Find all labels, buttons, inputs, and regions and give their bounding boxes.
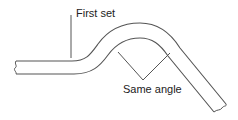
bent-tube-diagram: First set Same angle bbox=[0, 0, 238, 120]
tube-inner-edge bbox=[16, 38, 214, 112]
same-angle-v-lines bbox=[118, 52, 170, 80]
same-angle-label: Same angle bbox=[123, 84, 182, 95]
tube-outer-edge bbox=[16, 23, 226, 104]
first-set-label: First set bbox=[76, 8, 115, 19]
tube-left-end bbox=[14, 61, 16, 74]
tube-drawing bbox=[0, 0, 238, 120]
tube-right-end bbox=[214, 104, 226, 112]
